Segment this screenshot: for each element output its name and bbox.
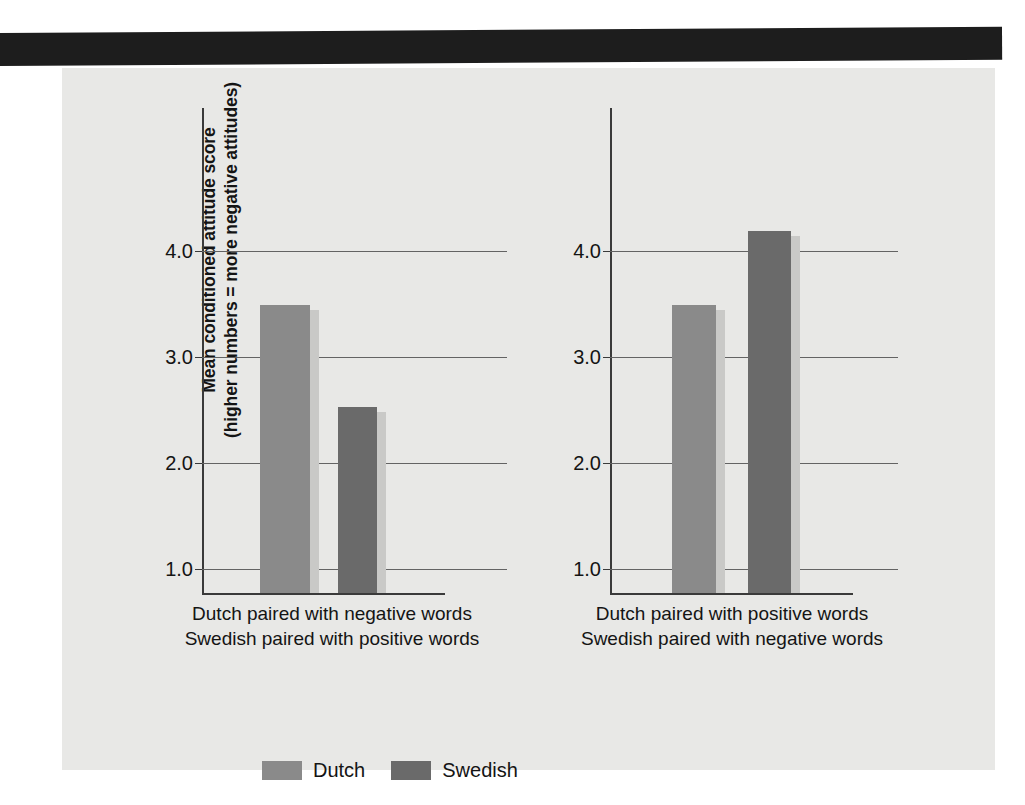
- bar-shadow: [716, 310, 725, 593]
- y-tick-label-3-right: 3.0: [573, 347, 601, 367]
- bar-fill-dutch: [672, 305, 716, 593]
- legend-swatch-swedish: [391, 761, 431, 780]
- legend-label-swedish: Swedish: [442, 760, 518, 780]
- legend-item-swedish[interactable]: Swedish: [391, 760, 518, 780]
- y-axis-line-left: [202, 108, 204, 595]
- page-header-band: [0, 27, 1002, 66]
- figure-panel: Mean conditioned attitude score (higher …: [62, 68, 995, 770]
- tickmark-2-left: [195, 463, 202, 464]
- x-axis-line-left: [202, 593, 445, 595]
- bar-right-swedish[interactable]: [748, 231, 791, 593]
- bar-shadow: [791, 236, 800, 593]
- legend: Dutch Swedish: [262, 760, 518, 780]
- legend-swatch-dutch: [262, 761, 302, 780]
- bar-left-dutch[interactable]: [260, 305, 310, 593]
- category-label-right-line2: Swedish paired with negative words: [532, 626, 932, 651]
- plot-area-left: 4.0 3.0 2.0 1.0: [202, 108, 445, 595]
- bar-shadow: [377, 412, 386, 593]
- x-axis-line-right: [610, 593, 853, 595]
- tickmark-4-left: [195, 251, 202, 252]
- bar-right-dutch[interactable]: [672, 305, 716, 593]
- bar-shadow: [310, 310, 319, 593]
- category-label-left-line1: Dutch paired with negative words: [122, 601, 542, 626]
- bar-fill-swedish: [748, 231, 791, 593]
- y-tick-label-2-left: 2.0: [165, 453, 193, 473]
- tickmark-3-right: [603, 357, 610, 358]
- y-tick-label-4-right: 4.0: [573, 241, 601, 261]
- tickmark-4-right: [603, 251, 610, 252]
- y-tick-label-2-right: 2.0: [573, 453, 601, 473]
- bar-fill-swedish: [338, 407, 377, 593]
- tickmark-1-left: [195, 569, 202, 570]
- legend-label-dutch: Dutch: [313, 760, 365, 780]
- plot-area-right: 4.0 3.0 2.0 1.0: [610, 108, 853, 595]
- category-label-left-line2: Swedish paired with positive words: [122, 626, 542, 651]
- y-tick-label-1-left: 1.0: [165, 559, 193, 579]
- gridline-4-left: 4.0: [202, 251, 507, 252]
- gridline-3-left: 3.0: [202, 357, 507, 358]
- category-label-right: Dutch paired with positive words Swedish…: [532, 601, 932, 651]
- category-label-left: Dutch paired with negative words Swedish…: [122, 601, 542, 651]
- y-tick-label-3-left: 3.0: [165, 347, 193, 367]
- tickmark-1-right: [603, 569, 610, 570]
- y-axis-line-right: [610, 108, 612, 595]
- y-tick-label-1-right: 1.0: [573, 559, 601, 579]
- y-tick-label-4-left: 4.0: [165, 241, 193, 261]
- bar-fill-dutch: [260, 305, 310, 593]
- bar-left-swedish[interactable]: [338, 407, 377, 593]
- tickmark-3-left: [195, 357, 202, 358]
- tickmark-2-right: [603, 463, 610, 464]
- category-label-right-line1: Dutch paired with positive words: [532, 601, 932, 626]
- legend-item-dutch[interactable]: Dutch: [262, 760, 365, 780]
